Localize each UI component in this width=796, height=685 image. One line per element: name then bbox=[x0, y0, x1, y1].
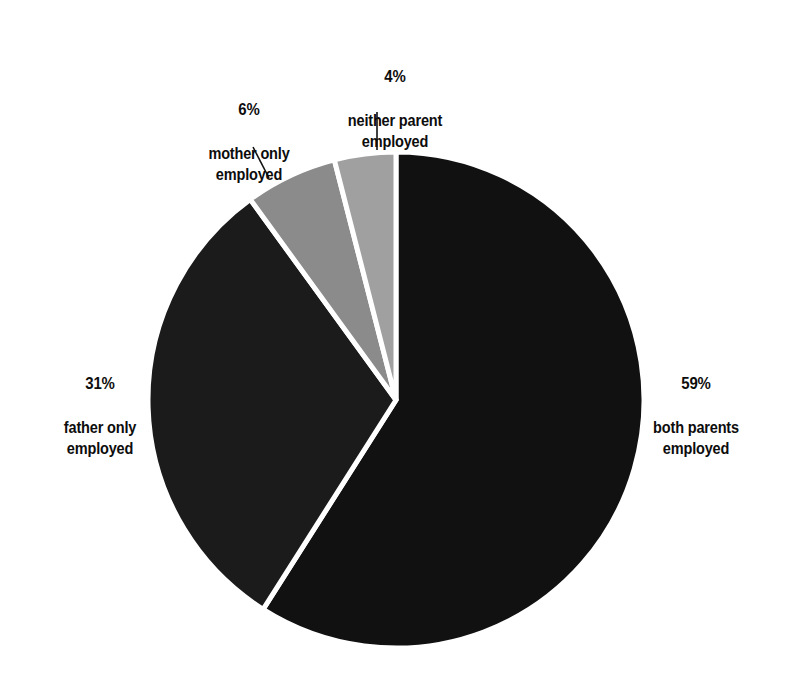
slice-label-father-only-employed: 31% father only employed bbox=[23, 352, 178, 481]
slice-label-both-parents-employed: 59% both parents employed bbox=[619, 352, 774, 481]
slice-label-neither-parent-employed: 4% neither parent employed bbox=[318, 45, 473, 174]
slice-description-father-only: father only employed bbox=[23, 417, 178, 460]
pie-chart: 4% neither parent employed 6% mother onl… bbox=[0, 0, 796, 685]
slice-description-both-parents: both parents employed bbox=[619, 417, 774, 460]
slice-description-neither-parent: neither parent employed bbox=[318, 110, 473, 153]
slice-label-mother-only-employed: 6% mother only employed bbox=[172, 78, 327, 207]
slice-percent-neither-parent: 4% bbox=[318, 66, 473, 88]
slice-description-mother-only: mother only employed bbox=[172, 143, 327, 186]
slice-percent-father-only: 31% bbox=[23, 373, 178, 395]
pie-slices-group bbox=[148, 152, 644, 648]
slice-percent-mother-only: 6% bbox=[172, 99, 327, 121]
slice-percent-both-parents: 59% bbox=[619, 373, 774, 395]
